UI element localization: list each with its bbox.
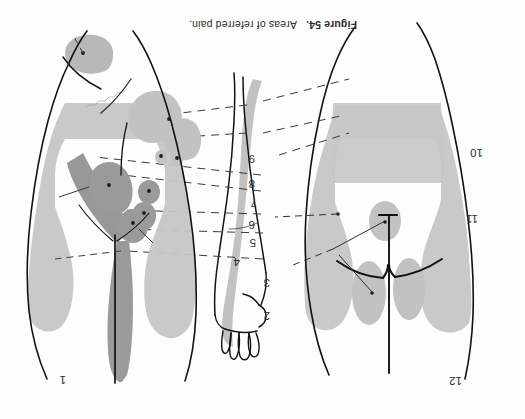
point-marker — [167, 117, 171, 121]
label-11: 11 — [466, 213, 478, 225]
pain-blob-epigastric-small — [132, 202, 156, 230]
label-10: 10 — [470, 147, 483, 159]
right-anterior-figure — [27, 31, 201, 383]
pain-area-right-paraspinal — [352, 261, 386, 325]
label-9: 9 — [249, 153, 255, 165]
pain-area-left-paraspinal — [393, 258, 425, 320]
figure-caption: Figure 54.Areas of referred pain. — [189, 19, 357, 31]
label-1: 1 — [60, 374, 66, 386]
figure-caption-text: Areas of referred pain. — [189, 19, 297, 31]
label-8: 8 — [249, 178, 255, 190]
figure-page: 1 2 3 4 5 6 7 8 9 10 11 12 Figure 54.Are… — [0, 0, 525, 419]
illustration-plate: 1 2 3 4 5 6 7 8 9 10 11 12 Figure 54.Are… — [0, 0, 525, 419]
anatomical-illustration: 1 2 3 4 5 6 7 8 9 10 11 12 — [0, 0, 525, 419]
point-marker — [107, 183, 111, 187]
point-marker — [159, 154, 163, 158]
label-2: 2 — [264, 310, 270, 322]
point-marker — [131, 221, 135, 225]
left-posterior-figure — [275, 23, 473, 379]
label-5: 5 — [250, 237, 256, 249]
point-marker — [147, 189, 151, 193]
point-marker — [175, 156, 179, 160]
label-4: 4 — [233, 256, 240, 268]
label-3: 3 — [264, 277, 270, 289]
label-6: 6 — [249, 219, 255, 231]
label-12: 12 — [449, 375, 462, 387]
figure-number: Figure 54. — [306, 19, 357, 31]
hand-dorsum-line — [215, 315, 257, 332]
label-7: 7 — [251, 197, 257, 209]
point-marker — [142, 211, 146, 215]
